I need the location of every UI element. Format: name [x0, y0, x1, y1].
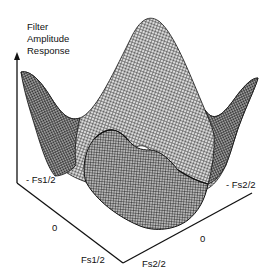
z-axis-label-line1: Filter: [27, 21, 48, 32]
arrow-up-icon: [14, 52, 20, 60]
filter-response-plot: Filter Amplitude Response - Fs1/2 0 Fs1/…: [0, 0, 272, 278]
z-axis-label-line3: Response: [27, 45, 70, 56]
axis1-pos-label: Fs1/2: [81, 254, 105, 265]
axis2-zero-label: 0: [200, 233, 205, 244]
z-axis-label-line2: Amplitude: [27, 33, 69, 44]
axis2-neg-label: - Fs2/2: [226, 179, 256, 190]
axis2-pos-label: Fs2/2: [142, 258, 166, 269]
axis1-zero-label: 0: [52, 222, 57, 233]
axis1-neg-label: - Fs1/2: [26, 174, 56, 185]
